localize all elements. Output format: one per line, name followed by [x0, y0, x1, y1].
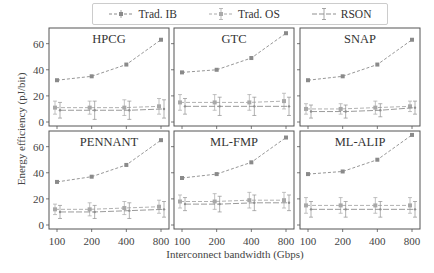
panel-hpcg: HPCG0204060 [33, 28, 169, 129]
data-point [124, 63, 128, 67]
data-point [249, 56, 253, 60]
data-point [88, 106, 92, 110]
data-point [284, 136, 288, 140]
data-point [339, 107, 343, 111]
panel-ml-fmp: ML-FMP100200400800 [171, 131, 295, 247]
data-point [288, 202, 290, 204]
data-point [122, 206, 126, 210]
data-point [341, 169, 345, 173]
data-point [180, 70, 184, 74]
panels-grid: HPCG0204060GTCSNAPPENNANT020406010020040… [33, 28, 421, 247]
data-point [306, 172, 310, 176]
data-point [341, 74, 345, 78]
x-tick-label: 400 [118, 235, 135, 247]
y-tick-label: 40 [33, 167, 45, 179]
data-point [414, 106, 416, 108]
panel-pennant: PENNANT0204060100200400800 [33, 131, 170, 247]
data-point [344, 208, 346, 210]
data-point [310, 208, 312, 210]
data-point [218, 203, 220, 205]
data-point [159, 38, 163, 42]
data-point [375, 158, 379, 162]
panel-title: HPCG [92, 32, 125, 46]
data-point [93, 211, 95, 213]
data-point [310, 110, 312, 112]
x-tick-label: 800 [278, 235, 295, 247]
data-point [339, 203, 343, 207]
x-tick-label: 200 [83, 235, 100, 247]
y-tick-label: 0 [39, 116, 45, 128]
data-point [157, 205, 161, 209]
data-point [124, 163, 128, 167]
y-tick-label: 60 [33, 38, 45, 50]
data-point [253, 105, 255, 107]
x-tick-label: 200 [208, 235, 225, 247]
x-tick-label: 100 [174, 235, 191, 247]
data-point [184, 105, 186, 107]
x-tick-label: 100 [300, 235, 317, 247]
data-point [344, 110, 346, 112]
data-point [218, 105, 220, 107]
x-tick-label: 400 [369, 235, 386, 247]
data-point [375, 63, 379, 67]
panel-title: GTC [222, 32, 247, 46]
chart-area: HPCG0204060GTCSNAPPENNANT020406010020040… [0, 0, 434, 273]
data-point [90, 175, 94, 179]
data-point [163, 208, 165, 210]
data-point [157, 104, 161, 108]
data-point [59, 211, 61, 213]
data-point [373, 203, 377, 207]
x-tick-label: 800 [404, 235, 421, 247]
data-point [128, 209, 130, 211]
data-point [304, 203, 308, 207]
data-point [163, 108, 165, 110]
data-point [284, 31, 288, 35]
data-point [247, 100, 251, 104]
data-point [373, 106, 377, 110]
data-point [178, 200, 182, 204]
x-tick-label: 200 [334, 235, 351, 247]
data-point [59, 109, 61, 111]
y-tick-label: 0 [39, 219, 45, 231]
data-point [249, 160, 253, 164]
x-tick-label: 400 [243, 235, 260, 247]
x-tick-label: 100 [49, 235, 66, 247]
panel-snap: SNAP [297, 28, 420, 129]
y-tick-label: 40 [33, 64, 45, 76]
data-point [304, 107, 308, 111]
panel-title: ML-FMP [210, 135, 258, 149]
data-point [213, 200, 217, 204]
data-point [414, 208, 416, 210]
data-point [122, 106, 126, 110]
data-point [55, 180, 59, 184]
data-point [128, 109, 130, 111]
data-point [253, 202, 255, 204]
y-axis-label: Energy efficiency (pJ/bit) [15, 72, 28, 185]
data-point [184, 203, 186, 205]
y-tick-label: 20 [33, 90, 45, 102]
data-point [215, 172, 219, 176]
panel-title: PENNANT [80, 135, 139, 149]
data-point [213, 100, 217, 104]
data-point [53, 106, 57, 110]
data-point [288, 105, 290, 107]
y-tick-label: 20 [33, 193, 45, 205]
panel-title: ML-ALIP [335, 135, 386, 149]
data-point [55, 78, 59, 82]
data-point [379, 208, 381, 210]
data-point [215, 68, 219, 72]
data-point [178, 100, 182, 104]
data-point [180, 176, 184, 180]
x-axis-label: Interconnect bandwidth (Gbps) [166, 248, 304, 261]
data-point [408, 203, 412, 207]
data-point [247, 198, 251, 202]
x-tick-label: 800 [153, 235, 170, 247]
data-point [410, 38, 414, 42]
data-point [159, 138, 163, 142]
data-point [53, 207, 57, 211]
data-point [306, 78, 310, 82]
data-point [88, 207, 92, 211]
panel-ml-alip: ML-ALIP100200400800 [297, 131, 421, 247]
data-point [410, 133, 414, 137]
data-point [93, 109, 95, 111]
